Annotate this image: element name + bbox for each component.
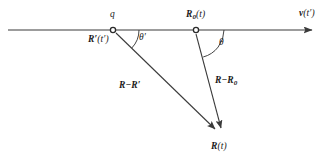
separation-retarded-prime-glyph: ′	[138, 80, 141, 90]
charge-label: q	[110, 10, 115, 20]
angle-theta-label: θ	[219, 38, 224, 48]
retarded-position-label: R′(t′)	[88, 35, 109, 45]
present-position-marker	[193, 27, 198, 32]
diagram-canvas	[0, 0, 334, 162]
separation-present-second-glyph: R	[227, 75, 233, 85]
present-position-arg-glyph: (t)	[196, 9, 205, 19]
separation-retarded-label: R−R′	[119, 81, 141, 91]
angle-arc-theta-prime	[132, 30, 139, 48]
velocity-label: v(t′)	[299, 9, 315, 19]
charge-position-marker	[110, 27, 115, 32]
retarded-position-arg-glyph: (t′)	[97, 34, 108, 44]
angle-theta-prime-label: θ′	[139, 33, 146, 43]
velocity-arg-glyph: (t′)	[303, 8, 314, 18]
separation-present-label: R−R0	[215, 76, 237, 86]
field-point-arg-glyph: (t)	[217, 141, 226, 151]
vector-diagram-figure: q R′(t′) R0(t) v(t′) θ′ θ R−R′ R−R0 R(t)	[0, 0, 334, 162]
present-position-subscript-glyph: 0	[192, 13, 196, 21]
separation-present-subscript-glyph: 0	[234, 79, 238, 87]
field-point-label: R(t)	[211, 142, 227, 152]
present-position-label: R0(t)	[186, 10, 205, 20]
